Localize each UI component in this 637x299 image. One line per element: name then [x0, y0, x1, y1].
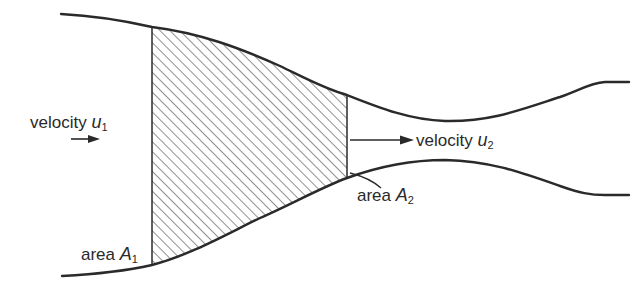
inlet-velocity-symbol: u1 [91, 112, 107, 132]
inlet-velocity-word: velocity [30, 113, 87, 132]
outlet-area-word: area [357, 186, 391, 205]
inlet-area-symbol: A1 [120, 244, 138, 264]
outlet-velocity-symbol: u2 [477, 130, 493, 150]
outlet-area-label: area A2 [357, 186, 414, 206]
outlet-area-symbol: A2 [396, 185, 414, 205]
inlet-area-label: area A1 [81, 245, 138, 265]
outlet-velocity-label: velocity u2 [416, 131, 494, 151]
lower-wall [62, 160, 629, 276]
inlet-arrow-icon [71, 135, 100, 143]
outlet-arrow-icon [350, 136, 414, 145]
inlet-area-word: area [81, 245, 115, 264]
control-volume-hatch [152, 27, 347, 265]
inlet-velocity-label: velocity u1 [30, 113, 108, 133]
outlet-velocity-word: velocity [416, 131, 473, 150]
